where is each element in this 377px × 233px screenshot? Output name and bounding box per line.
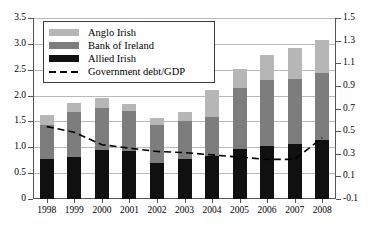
x-axis-label: 2003 (170, 205, 200, 216)
y-axis-tick-right (336, 86, 341, 87)
y-axis-tick-right (336, 63, 341, 64)
bar-segment-boi (150, 125, 164, 163)
bar-segment-boi (95, 108, 109, 150)
x-axis-tick (102, 199, 103, 203)
x-axis-tick (74, 199, 75, 203)
y-axis-label-left: 1.0 (0, 142, 26, 152)
bar-segment-boi (205, 117, 219, 156)
bar-segment-anglo (67, 103, 81, 112)
legend-swatch-bank-of-ireland (49, 42, 79, 49)
y-axis-tick-left (28, 96, 33, 97)
bar-segment-anglo (233, 69, 247, 88)
x-axis-tick (322, 199, 323, 203)
y-axis-tick-left (28, 44, 33, 45)
bar-2003 (178, 112, 192, 199)
y-axis-label-left: 0.5 (0, 168, 26, 178)
x-axis-tick (129, 199, 130, 203)
legend-label-bank-of-ireland: Bank of Ireland (88, 40, 154, 52)
bar-segment-anglo (205, 90, 219, 117)
y-axis-label-right: 1.1 (343, 58, 373, 68)
bar-segment-boi (40, 125, 54, 159)
x-axis-tick (267, 199, 268, 203)
legend-item-anglo-irish: Anglo Irish (49, 26, 208, 39)
bar-segment-boi (178, 121, 192, 159)
y-axis-tick-left (28, 18, 33, 19)
bar-segment-aib (288, 144, 302, 199)
y-axis-tick-right (336, 131, 341, 132)
legend-item-government-debt-gdp: Government debt/GDP (49, 65, 208, 78)
y-axis-label-right: -0.1 (343, 194, 373, 204)
bar-segment-anglo (150, 118, 164, 125)
bar-segment-aib (260, 146, 274, 199)
y-axis-tick-left (28, 199, 33, 200)
y-axis-tick-right (336, 176, 341, 177)
legend-item-allied-irish: Allied Irish (49, 52, 208, 65)
bar-segment-anglo (40, 115, 54, 125)
x-axis-label: 2002 (142, 205, 172, 216)
bar-2007 (288, 48, 302, 200)
bar-segment-aib (150, 163, 164, 199)
bar-1998 (40, 115, 54, 199)
x-axis-label: 1999 (59, 205, 89, 216)
y-axis-label-right: 0.5 (343, 126, 373, 136)
bar-2004 (205, 90, 219, 199)
legend-label-anglo-irish: Anglo Irish (88, 27, 136, 39)
x-axis-label: 2006 (252, 205, 282, 216)
y-axis-label-right: 1.5 (343, 13, 373, 23)
x-axis-label: 2004 (197, 205, 227, 216)
y-axis-tick-left (28, 147, 33, 148)
y-axis-label-left: 2.5 (0, 65, 26, 75)
y-axis-label-left: 2.0 (0, 91, 26, 101)
y-axis-label-left: 1.5 (0, 116, 26, 126)
legend-label-government-debt-gdp: Government debt/GDP (88, 66, 185, 78)
bar-segment-boi (260, 80, 274, 146)
legend-item-bank-of-ireland: Bank of Ireland (49, 39, 208, 52)
y-axis-tick-right (336, 109, 341, 110)
x-axis-label: 2001 (114, 205, 144, 216)
bar-segment-aib (67, 157, 81, 199)
x-axis-label: 2005 (225, 205, 255, 216)
x-axis-tick (157, 199, 158, 203)
legend-swatch-anglo-irish (49, 29, 79, 36)
bar-segment-aib (40, 159, 54, 199)
y-axis-label-left: 0 (0, 194, 26, 204)
x-axis-tick (295, 199, 296, 203)
x-axis-label: 2007 (280, 205, 310, 216)
x-axis-label: 1998 (32, 205, 62, 216)
bar-segment-anglo (260, 55, 274, 80)
y-axis-tick-left (28, 121, 33, 122)
legend-swatch-government-debt-gdp (49, 68, 79, 75)
bar-segment-aib (178, 159, 192, 199)
legend-label-allied-irish: Allied Irish (88, 53, 136, 65)
bar-2000 (95, 98, 109, 199)
bar-segment-aib (95, 150, 109, 199)
y-axis-label-left: 3.0 (0, 39, 26, 49)
bar-segment-anglo (95, 98, 109, 107)
x-axis-label: 2008 (307, 205, 337, 216)
bar-segment-boi (315, 73, 329, 139)
legend-swatch-allied-irish (49, 55, 79, 62)
bar-2008 (315, 40, 329, 199)
bar-segment-aib (205, 156, 219, 199)
y-axis-tick-left (28, 173, 33, 174)
bar-segment-boi (233, 88, 247, 149)
x-axis-tick (240, 199, 241, 203)
bar-2001 (122, 104, 136, 199)
x-axis-label: 2000 (87, 205, 117, 216)
bar-segment-aib (233, 149, 247, 199)
y-axis-tick-right (336, 199, 341, 200)
bar-segment-boi (122, 111, 136, 151)
bar-segment-aib (315, 140, 329, 200)
bank-assets-and-government-debt-chart: 00.51.01.52.02.53.03.5-0.10.10.30.50.70.… (0, 0, 377, 233)
bar-segment-anglo (178, 112, 192, 122)
x-axis-tick (47, 199, 48, 203)
y-axis-label-right: 1.3 (343, 36, 373, 46)
chart-legend: Anglo Irish Bank of Ireland Allied Irish… (43, 21, 215, 83)
y-axis-tick-right (336, 41, 341, 42)
bar-segment-anglo (315, 40, 329, 74)
bar-1999 (67, 103, 81, 199)
y-axis-label-left: 3.5 (0, 13, 26, 23)
bar-segment-anglo (122, 104, 136, 111)
x-axis-tick (212, 199, 213, 203)
y-axis-tick-right (336, 154, 341, 155)
